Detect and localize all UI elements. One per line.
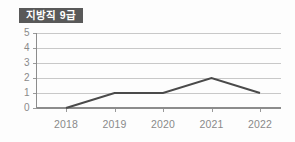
plot-area: 012345 (0, 25, 295, 120)
y-axis-tick-labels: 012345 (24, 27, 30, 113)
x-axis-tick-label: 2019 (103, 118, 127, 130)
y-axis-tick-label: 1 (24, 87, 30, 98)
y-axis-tick-label: 2 (24, 72, 30, 83)
y-axis-tick-label: 3 (24, 57, 30, 68)
chart-card: 지방직 9급 012345 20182019202020212022 (0, 0, 295, 142)
x-axis-tick-label: 2020 (151, 118, 175, 130)
y-axis-tick-label: 5 (24, 27, 30, 38)
line-chart-svg: 012345 (0, 25, 295, 120)
chart-title-badge: 지방직 9급 (19, 8, 83, 23)
gridlines (37, 34, 282, 109)
y-axis-tick-label: 4 (24, 42, 30, 53)
x-axis-labels: 20182019202020212022 (0, 118, 295, 138)
x-axis-tick-label: 2018 (54, 118, 78, 130)
x-axis-tick-label: 2022 (248, 118, 272, 130)
x-axis-tick-label: 2021 (200, 118, 224, 130)
y-axis-tick-label: 0 (24, 102, 30, 113)
